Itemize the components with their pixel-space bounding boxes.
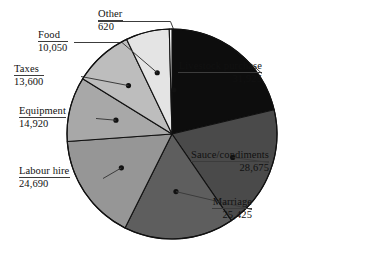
callout-label: Taxes: [14, 63, 44, 75]
callout-value: 25,425: [212, 209, 252, 221]
callout-label: Labour hire: [19, 165, 70, 177]
callout-livestock-purchase: Livestock purchase 31,925: [178, 60, 262, 85]
callout-marriage: Marriage 25,425: [212, 196, 252, 221]
callout-value: 620: [98, 21, 123, 33]
callout-value: 24,690: [19, 178, 70, 190]
callout-label: Sauce/condiments: [191, 149, 269, 161]
callout-value: 13,600: [14, 76, 44, 88]
callout-value: 10,050: [38, 42, 68, 54]
callout-label: Other: [98, 8, 123, 20]
callout-value: 31,925: [178, 73, 262, 85]
callout-label: Food: [38, 29, 68, 41]
callout-label: Livestock purchase: [178, 60, 262, 72]
callout-other: Other 620: [98, 8, 123, 33]
callout-value: 28,675: [191, 162, 269, 174]
callout-taxes: Taxes 13,600: [14, 63, 44, 88]
callout-labour-hire: Labour hire 24,690: [19, 165, 70, 190]
leader-dot: [171, 87, 176, 92]
leader-line: [171, 22, 174, 30]
callout-sauce-condiments: Sauce/condiments 28,675: [191, 149, 269, 174]
callout-label: Marriage: [212, 196, 252, 208]
callout-value: 14,920: [19, 118, 66, 130]
callout-label: Equipment: [19, 105, 66, 117]
pie-chart: Livestock purchase 31,925 Sauce/condimen…: [0, 0, 377, 275]
callout-equipment: Equipment 14,920: [19, 105, 66, 130]
callout-food: Food 10,050: [38, 29, 68, 54]
